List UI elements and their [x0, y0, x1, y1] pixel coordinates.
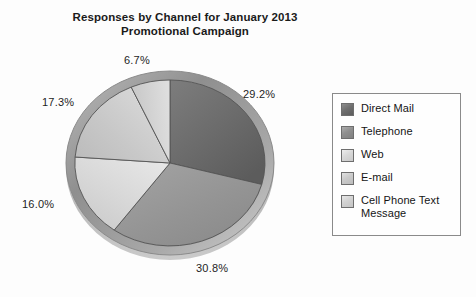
legend-swatch-icon-telephone [341, 126, 354, 139]
legend-item-direct-mail[interactable]: Direct Mail [341, 102, 454, 116]
page-title: Responses by Channel for January 2013 Pr… [0, 10, 370, 38]
legend-item-cell-phone-text-message[interactable]: Cell Phone Text Message [341, 194, 454, 219]
legend-swatch-icon-email [341, 172, 354, 185]
pie-value-label-direct-mail: 29.2% [243, 88, 275, 100]
pie-value-label-telephone: 30.8% [196, 262, 228, 274]
legend-label-cell-phone-text-message: Cell Phone Text Message [361, 194, 454, 219]
legend-label-telephone: Telephone [361, 125, 413, 138]
legend-swatch-icon-web [341, 149, 354, 162]
chart-legend: Direct Mail Telephone Web E-mail Cell Ph… [332, 93, 461, 236]
pie-chart-figure: Responses by Channel for January 2013 Pr… [0, 0, 476, 297]
chart-title-line-2: Promotional Campaign [0, 24, 370, 38]
legend-item-email[interactable]: E-mail [341, 171, 454, 185]
pie-value-label-email: 17.3% [42, 96, 74, 108]
legend-label-web: Web [361, 148, 384, 161]
legend-swatch-icon-direct-mail [341, 103, 354, 116]
pie-slices [75, 80, 265, 246]
pie-value-label-cell-phone-text-message: 6.7% [124, 54, 150, 66]
legend-swatch-icon-cell-phone-text-message [341, 195, 354, 208]
legend-label-email: E-mail [361, 171, 393, 184]
chart-title-line-1: Responses by Channel for January 2013 [0, 10, 370, 24]
pie-value-label-web: 16.0% [22, 198, 54, 210]
legend-item-web[interactable]: Web [341, 148, 454, 162]
legend-label-direct-mail: Direct Mail [361, 102, 414, 115]
legend-item-telephone[interactable]: Telephone [341, 125, 454, 139]
